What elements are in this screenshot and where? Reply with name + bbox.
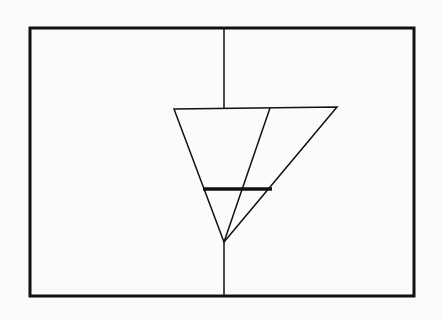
- outer-triangle: [174, 107, 337, 242]
- frame-border: [30, 28, 414, 296]
- diagram-canvas: [0, 0, 443, 320]
- inner-diagonal-line: [224, 108, 270, 242]
